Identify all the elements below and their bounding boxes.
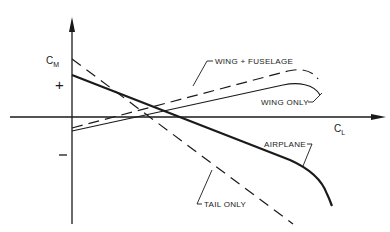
x-axis: [10, 114, 386, 120]
y-axis-label: CM: [46, 55, 59, 68]
positive-sign: +: [55, 76, 64, 93]
svg-text:TAIL ONLY: TAIL ONLY: [204, 200, 246, 209]
y-axis: [69, 17, 75, 224]
curve-tail-only: [72, 59, 293, 224]
svg-text:WING ONLY: WING ONLY: [261, 98, 309, 107]
label-wing-fuselage: WING + FUSELAGE: [193, 57, 293, 86]
y-axis-arrowhead-icon: [69, 17, 75, 32]
svg-text:WING + FUSELAGE: WING + FUSELAGE: [215, 57, 293, 66]
x-axis-arrowhead-icon: [371, 114, 386, 120]
label-wing-only: WING ONLY: [261, 93, 322, 107]
label-tail-only: TAIL ONLY: [197, 170, 246, 209]
x-axis-label: CL: [334, 123, 345, 136]
svg-text:AIRPLANE: AIRPLANE: [264, 140, 306, 149]
pitching-moment-diagram: CM CL + WING + FUSELAGE WING ONLY AIRPLA…: [0, 0, 390, 232]
